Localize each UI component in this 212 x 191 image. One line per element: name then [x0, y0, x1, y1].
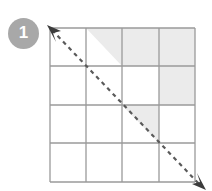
grid-cell-r1c2-triangle [86, 28, 122, 66]
diagram-canvas: 1 [0, 0, 212, 191]
grid-cell-r1c4 [159, 28, 195, 66]
grid-cell-r1c3 [122, 28, 159, 66]
grid-cell-r2c4 [159, 66, 195, 105]
grid-board [0, 0, 212, 191]
